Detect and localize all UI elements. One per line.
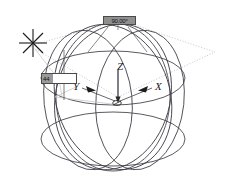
diagram-canvas: Z Y X 90.00° 44	[0, 0, 227, 193]
angle-dimension-callout[interactable]: 90.00°	[103, 16, 136, 25]
cad-drawing	[0, 0, 227, 193]
axis-label-x: X	[155, 81, 162, 92]
snap-crosshair-icon	[19, 29, 47, 57]
circle-side-left	[37, 26, 139, 174]
radius-dimension-callout[interactable]: 44	[41, 73, 77, 84]
reference-plane-dotted	[30, 20, 215, 97]
axis-label-z: Z	[117, 61, 123, 72]
angle-dimension-leaders	[88, 25, 147, 52]
axis-z	[115, 70, 120, 103]
circle-front-vertical	[56, 23, 170, 171]
sphere-wireframe	[36, 9, 191, 185]
radius-dimension-value: 44	[42, 74, 53, 83]
axis-y	[82, 86, 115, 101]
circle-equator-lower	[41, 112, 185, 166]
radius-dimension-field	[53, 74, 76, 83]
angle-dimension-value: 90.00°	[104, 17, 135, 24]
